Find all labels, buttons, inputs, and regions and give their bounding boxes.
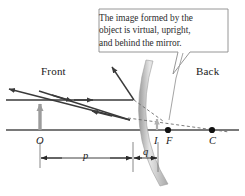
callout-line-2: object is virtual, upright, [99,24,225,36]
focal-point-label: F [166,136,172,147]
image-distance-label: q [143,147,148,158]
center-of-curvature-dot [209,127,215,133]
front-region-label: Front [41,66,66,77]
callout-line-3: and behind the mirror. [99,37,225,49]
back-region-label: Back [196,66,219,77]
focal-point-dot [165,127,171,133]
object-point-label: O [36,136,44,147]
reflected-ray-upward [112,67,134,100]
center-point-label: C [209,136,216,147]
image-point-label: I [154,136,158,147]
callout-line-1: The image formed by the [99,12,225,24]
object-distance-label: p [83,151,88,162]
optics-ray-diagram-figure: The image formed by the object is virtua… [0,0,245,196]
callout-text: The image formed by the object is virtua… [99,12,225,49]
concave-mirror [139,60,168,186]
